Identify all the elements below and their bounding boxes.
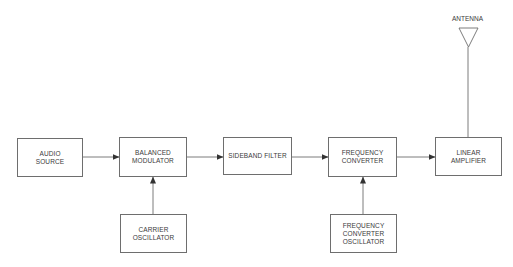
block-frequency-converter: FREQUENCY CONVERTER xyxy=(328,137,397,177)
block-carrier-oscillator: CARRIER OSCILLATOR xyxy=(120,214,187,253)
antenna-label: ANTENNA xyxy=(452,15,483,22)
block-frequency-converter-oscillator: FREQUENCY CONVERTER OSCILLATOR xyxy=(330,214,397,253)
antenna-icon xyxy=(459,28,478,47)
block-linear-amplifier: LINEAR AMPLIFIER xyxy=(435,137,502,176)
block-audio-source: AUDIO SOURCE xyxy=(17,138,83,177)
block-sideband-filter: SIDEBAND FILTER xyxy=(223,137,292,175)
connection-wires xyxy=(0,0,513,267)
block-balanced-modulator: BALANCED MODULATOR xyxy=(119,137,187,177)
